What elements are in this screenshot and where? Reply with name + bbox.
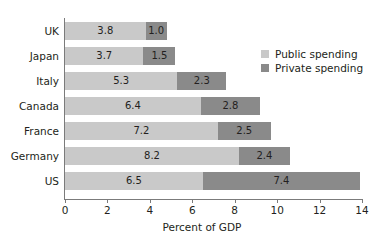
x-tick-label-0: 0 <box>62 204 69 216</box>
bar-private-italy: 2.3 <box>177 72 226 90</box>
bar-row: Germany8.22.4 <box>65 147 362 165</box>
legend-swatch-icon <box>261 64 269 72</box>
x-tick-label-12: 12 <box>313 204 326 216</box>
bar-public-france: 7.2 <box>65 122 218 140</box>
bar-private-japan: 1.5 <box>143 47 175 65</box>
bar-row: UK3.81.0 <box>65 22 362 40</box>
x-tick-10 <box>277 199 278 203</box>
bar-public-canada: 6.4 <box>65 97 201 115</box>
category-label-canada: Canada <box>19 97 59 115</box>
category-label-france: France <box>24 122 59 140</box>
bar-private-france: 2.5 <box>218 122 271 140</box>
x-tick-label-6: 6 <box>189 204 196 216</box>
x-tick-0 <box>65 199 66 203</box>
legend-swatch-icon <box>261 50 269 58</box>
bar-private-canada: 2.8 <box>201 97 260 115</box>
x-tick-2 <box>107 199 108 203</box>
bar-private-germany: 2.4 <box>239 147 290 165</box>
bar-public-uk: 3.8 <box>65 22 146 40</box>
bar-row: Canada6.42.8 <box>65 97 362 115</box>
bar-private-us: 7.4 <box>203 172 360 190</box>
bar-private-uk: 1.0 <box>146 22 167 40</box>
category-label-us: US <box>45 172 59 190</box>
bar-public-us: 6.5 <box>65 172 203 190</box>
x-axis-title: Percent of GDP <box>0 221 368 233</box>
x-tick-label-14: 14 <box>355 204 368 216</box>
x-tick-label-4: 4 <box>147 204 154 216</box>
x-tick-14 <box>362 199 363 203</box>
x-tick-6 <box>192 199 193 203</box>
legend-label: Private spending <box>275 62 363 74</box>
x-tick-12 <box>320 199 321 203</box>
bar-row: US6.57.4 <box>65 172 362 190</box>
legend-item: Public spending <box>261 47 363 61</box>
x-axis-line <box>64 199 363 200</box>
x-tick-label-8: 8 <box>231 204 238 216</box>
chart-legend: Public spendingPrivate spending <box>261 47 363 75</box>
x-axis-title-text: Percent of GDP <box>163 221 242 233</box>
x-tick-label-2: 2 <box>104 204 111 216</box>
bar-row: France7.22.5 <box>65 122 362 140</box>
category-label-uk: UK <box>44 22 59 40</box>
bar-public-germany: 8.2 <box>65 147 239 165</box>
legend-item: Private spending <box>261 61 363 75</box>
x-tick-label-10: 10 <box>270 204 283 216</box>
category-label-italy: Italy <box>36 72 59 90</box>
bar-public-japan: 3.7 <box>65 47 143 65</box>
bar-public-italy: 5.3 <box>65 72 177 90</box>
category-label-japan: Japan <box>30 47 59 65</box>
x-tick-4 <box>150 199 151 203</box>
legend-label: Public spending <box>275 48 358 60</box>
category-label-germany: Germany <box>11 147 59 165</box>
x-tick-8 <box>235 199 236 203</box>
